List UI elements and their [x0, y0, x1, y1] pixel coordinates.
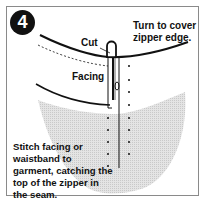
- label-turn-to-cover: Turn to cover zipper edge.: [133, 20, 199, 43]
- cut-pointer-line: [100, 48, 110, 53]
- zipper-top: [107, 42, 116, 59]
- facing-panel: [108, 57, 112, 108]
- step-number-badge: 4: [10, 10, 35, 35]
- top-strip: [0, 0, 203, 4]
- facing-lower-edge: [36, 84, 110, 105]
- label-cut: Cut: [81, 37, 98, 49]
- label-stitch-instruction: Stitch facing or waistband to garment, c…: [13, 141, 113, 200]
- label-facing: Facing: [72, 71, 104, 83]
- stitch-dots-right: [128, 65, 130, 155]
